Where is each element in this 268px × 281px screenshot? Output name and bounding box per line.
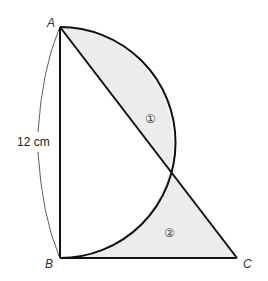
geometry-diagram: 12 cm A B C ① ② <box>0 0 268 281</box>
region-label-1: ① <box>145 112 156 126</box>
point-label-a: A <box>46 16 55 30</box>
dimension-label: 12 cm <box>17 135 50 149</box>
point-label-b: B <box>45 257 53 271</box>
shaded-region-2 <box>60 171 237 258</box>
dimension-arc-lower <box>38 152 59 256</box>
dimension-arc-upper <box>38 29 59 132</box>
region-label-2: ② <box>164 226 175 240</box>
point-label-c: C <box>243 257 252 271</box>
